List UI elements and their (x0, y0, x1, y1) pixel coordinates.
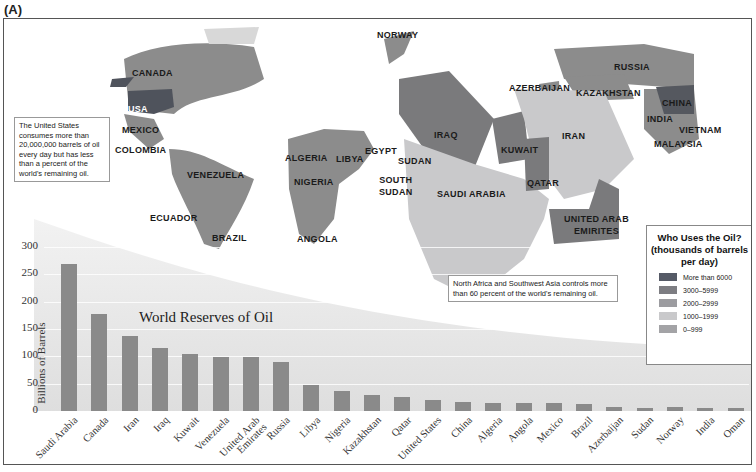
map-label: NIGERIA (294, 176, 334, 188)
usa-note: The United States consumes more than 20,… (14, 117, 110, 182)
legend: Who Uses the Oil? (thousands of barrels … (646, 225, 752, 365)
map-label: INDIA (647, 113, 673, 125)
gridline (44, 274, 749, 275)
map-label: ALGERIA (285, 152, 328, 164)
legend-title: Who Uses the Oil? (thousands of barrels … (647, 232, 752, 268)
bar (606, 407, 622, 411)
gridline (44, 247, 749, 248)
legend-item: 3000–5999 (659, 286, 752, 294)
map-label: QATAR (527, 177, 559, 189)
map-label: SAUDI ARABIA (437, 188, 506, 200)
bar (697, 408, 713, 411)
y-tick-label: 50 (16, 376, 38, 388)
bar (364, 395, 380, 411)
figure-frame: CANADAUSAMEXICOCOLOMBIAVENEZUELAECUADORB… (3, 18, 752, 465)
map-label: USA (128, 103, 148, 115)
legend-label: More than 6000 (683, 274, 732, 281)
map-label: RUSSIA (614, 61, 650, 73)
y-tick-label: 100 (16, 348, 38, 360)
bar (61, 264, 77, 411)
legend-swatch (659, 273, 677, 281)
bar (485, 403, 501, 411)
bar (576, 404, 592, 411)
legend-swatch (659, 312, 677, 320)
map-label: ECUADOR (150, 212, 198, 224)
bar (273, 362, 289, 411)
bar (667, 407, 683, 411)
bar (303, 385, 319, 411)
y-tick-label: 0 (16, 403, 38, 415)
mideast-note: North Africa and Southwest Asia controls… (448, 275, 618, 302)
y-tick-label: 200 (16, 294, 38, 306)
map-label: ANGOLA (297, 233, 338, 245)
gridline (44, 356, 749, 357)
y-tick-label: 150 (16, 321, 38, 333)
map-label: IRAQ (434, 129, 458, 141)
gridline (44, 384, 749, 385)
greenland-shape (204, 27, 259, 44)
legend-item: 2000–2999 (659, 299, 752, 307)
map-label: SOUTH SUDAN (379, 174, 413, 198)
map-label: KAZAKHSTAN (576, 87, 641, 99)
gridline (44, 302, 749, 303)
map-label: UNITED ARAB EMIRITES (564, 213, 629, 237)
gridline (44, 329, 749, 330)
bar (425, 400, 441, 411)
map-label: CHINA (662, 97, 692, 109)
legend-label: 0–999 (683, 326, 702, 333)
bar (91, 314, 107, 411)
bar (182, 354, 198, 411)
bar (455, 402, 471, 411)
map-label: VENEZUELA (187, 169, 244, 181)
legend-swatch (659, 325, 677, 333)
bar (637, 408, 653, 411)
legend-label: 1000–1999 (683, 313, 718, 320)
bar (152, 348, 168, 411)
legend-item: 1000–1999 (659, 312, 752, 320)
y-tick-label: 250 (16, 266, 38, 278)
bar (122, 336, 138, 411)
map-label: CANADA (132, 67, 173, 79)
bar (728, 408, 744, 411)
y-tick-label: 300 (16, 239, 38, 251)
legend-label: 3000–5999 (683, 287, 718, 294)
map-label: KUWAIT (501, 144, 538, 156)
map-label: NORWAY (377, 29, 418, 41)
map-label: AZERBAIJAN (509, 82, 570, 94)
bar (516, 403, 532, 411)
legend-swatch (659, 299, 677, 307)
map-label: SUDAN (398, 155, 432, 167)
legend-item: 0–999 (659, 325, 752, 333)
bar (394, 397, 410, 411)
bar (213, 357, 229, 411)
legend-label: 2000–2999 (683, 300, 718, 307)
map-label: MEXICO (122, 124, 159, 136)
map-label: EGYPT (365, 145, 397, 157)
map-label: IRAN (562, 130, 585, 142)
panel-label: (A) (4, 2, 22, 17)
bar (546, 403, 562, 411)
map-label: LIBYA (336, 153, 364, 165)
legend-item: More than 6000 (659, 273, 752, 281)
map-label: COLOMBIA (115, 144, 166, 156)
map-label: BRAZIL (212, 232, 247, 244)
legend-swatch (659, 286, 677, 294)
bar (243, 357, 259, 411)
legend-items: More than 60003000–59992000–29991000–199… (647, 273, 752, 333)
bar (334, 391, 350, 411)
chart-title: World Reserves of Oil (139, 309, 273, 326)
map-label: MALAYSIA (654, 138, 703, 150)
map-label: VIETNAM (679, 124, 722, 136)
kuwait-shape (492, 111, 529, 164)
